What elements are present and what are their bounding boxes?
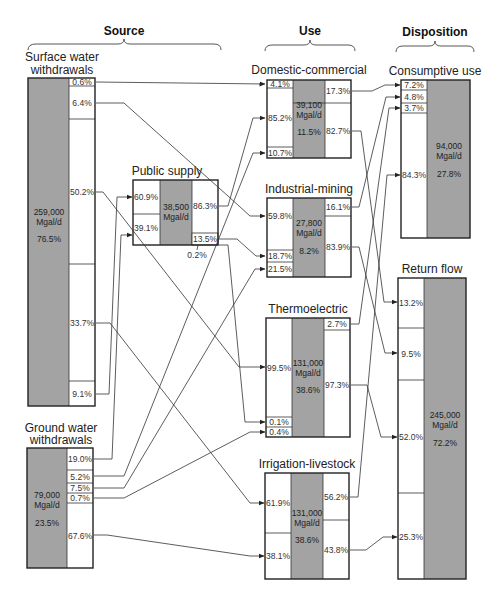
return-in-2: 52.0% <box>399 432 424 442</box>
return-flow-node: Return flow 13.2% 9.5% 52.0% 25.3% 245,0… <box>398 262 466 579</box>
water-flow-diagram: Source Use Disposition Surface water wit… <box>0 0 497 600</box>
domestic-out-0: 17.3% <box>326 86 351 96</box>
flow-ground-irrigation <box>94 535 264 556</box>
domestic-title: Domestic-commercial <box>251 63 366 77</box>
industrial-in-1: 18.7% <box>268 251 293 261</box>
return-in-1: 9.5% <box>401 349 421 359</box>
domestic-unit: Mgal/d <box>296 110 322 120</box>
surface-share: 76.5% <box>37 234 62 244</box>
public-out-0: 86.3% <box>193 201 218 211</box>
irrigation-livestock-node: Irrigation-livestock 61.9% 38.1% 56.2% 4… <box>259 457 357 579</box>
irrigation-unit: Mgal/d <box>294 518 320 528</box>
flow-ground-public <box>94 235 132 459</box>
thermo-volume: 131,000 <box>293 358 324 368</box>
domestic-in-1: 85.2% <box>268 113 293 123</box>
public-out-1: 13.5% <box>193 234 218 244</box>
thermo-share: 38.6% <box>296 385 321 395</box>
industrial-out-0: 16.1% <box>326 202 351 212</box>
industrial-mining-node: Industrial-mining 59.8% 18.7% 21.5% 16.1… <box>265 182 353 277</box>
consumptive-in-3: 84.3% <box>402 170 427 180</box>
surface-title-line1: Surface water <box>25 50 99 64</box>
flow-surface-public <box>96 197 132 394</box>
industrial-title: Industrial-mining <box>265 182 353 196</box>
use-brace <box>265 40 355 51</box>
ground-seg-0: 19.0% <box>68 454 93 464</box>
ground-water-node: Ground water withdrawals 19.0% 5.2% 7.5%… <box>25 421 98 568</box>
flow-irrigation-return <box>350 537 397 550</box>
ground-share: 23.5% <box>35 518 60 528</box>
return-share: 72.2% <box>433 438 458 448</box>
surface-seg-1: 6.4% <box>72 98 92 108</box>
surface-seg-4: 9.1% <box>72 389 92 399</box>
irrigation-out-1: 43.8% <box>324 545 349 555</box>
thermo-in-2: 0.4% <box>269 427 289 437</box>
ground-seg-2: 7.5% <box>70 483 90 493</box>
header-disposition: Disposition <box>402 25 467 39</box>
flow-industrial-return <box>352 247 397 353</box>
ground-seg-4: 67.6% <box>68 531 93 541</box>
industrial-in-2: 21.5% <box>268 264 293 274</box>
surface-unit: Mgal/d <box>36 217 62 227</box>
return-in-3: 25.3% <box>399 532 424 542</box>
irrigation-out-0: 56.2% <box>324 492 349 502</box>
public-in-1: 39.1% <box>134 223 159 233</box>
flow-irrigation-consumptive <box>350 175 400 497</box>
irrigation-title: Irrigation-livestock <box>259 457 357 471</box>
flow-domestic-consumptive <box>352 85 400 91</box>
domestic-in-0: 4.1% <box>270 79 290 89</box>
irrigation-in-0: 61.9% <box>266 498 291 508</box>
consumptive-share: 27.8% <box>437 169 462 179</box>
ground-title-line2: withdrawals <box>29 433 93 447</box>
consumptive-in-1: 4.8% <box>404 92 424 102</box>
surface-volume: 259,000 <box>34 207 65 217</box>
industrial-out-1: 83.9% <box>326 242 351 252</box>
thermo-title: Thermoelectric <box>268 302 347 316</box>
consumptive-volume: 94,000 <box>436 141 462 151</box>
disposition-brace <box>396 41 474 52</box>
thermo-in-0: 99.5% <box>267 363 292 373</box>
flow-thermo-return <box>351 385 397 437</box>
public-unit: Mgal/d <box>163 212 189 222</box>
thermo-out-0: 2.7% <box>327 319 347 329</box>
consumptive-unit: Mgal/d <box>436 151 462 161</box>
domestic-commercial-node: Domestic-commercial 4.1% 85.2% 10.7% 17.… <box>251 63 366 158</box>
flow-industrial-consumptive <box>352 97 400 207</box>
flow-lines <box>94 82 400 556</box>
source-brace <box>28 39 221 50</box>
industrial-volume: 27,800 <box>296 218 322 228</box>
domestic-out-1: 82.7% <box>326 126 351 136</box>
ground-seg-3: 0.7% <box>70 493 90 503</box>
public-out-2: 0.2% <box>187 250 207 260</box>
thermo-in-1: 0.1% <box>269 417 289 427</box>
consumptive-use-node: Consumptive use 7.2% 4.8% 3.7% 84.3% 94,… <box>389 64 482 238</box>
flow-public-thermo <box>219 245 265 422</box>
surface-seg-3: 33.7% <box>70 318 95 328</box>
consumptive-in-0: 7.2% <box>404 80 424 90</box>
thermo-out-1: 97.3% <box>325 380 350 390</box>
surface-seg-0: 0.6% <box>72 77 92 87</box>
flow-domestic-return <box>352 131 397 302</box>
header-use: Use <box>299 24 321 38</box>
return-unit: Mgal/d <box>432 420 458 430</box>
industrial-share: 8.2% <box>299 246 319 256</box>
flow-public-industrial <box>219 239 265 256</box>
public-supply-title: Public supply <box>132 164 203 178</box>
ground-unit: Mgal/d <box>34 500 60 510</box>
ground-volume: 79,000 <box>34 490 60 500</box>
consumptive-title: Consumptive use <box>389 64 482 78</box>
flow-surface-domestic <box>96 82 265 84</box>
industrial-unit: Mgal/d <box>296 228 322 238</box>
irrigation-volume: 131,000 <box>292 508 323 518</box>
irrigation-in-1: 38.1% <box>266 551 291 561</box>
domestic-in-2: 10.7% <box>268 148 293 158</box>
surface-seg-2: 50.2% <box>70 187 95 197</box>
public-in-0: 60.9% <box>134 192 159 202</box>
surface-water-node: Surface water withdrawals 0.6% 6.4% 50.2… <box>25 50 99 406</box>
domestic-volume: 39,100 <box>296 100 322 110</box>
irrigation-share: 38.6% <box>295 535 320 545</box>
consumptive-in-2: 3.7% <box>404 103 424 113</box>
surface-title-line2: withdrawals <box>30 63 94 77</box>
flow-public-domestic <box>219 118 265 206</box>
return-title: Return flow <box>402 262 463 276</box>
thermo-unit: Mgal/d <box>295 368 321 378</box>
